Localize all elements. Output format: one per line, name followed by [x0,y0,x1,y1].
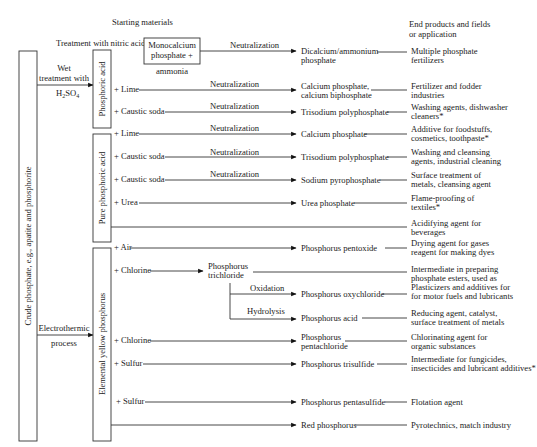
row4-product-1: Trisodium polyphosphate [301,152,389,162]
row11-process: Hydrolysis [247,306,285,316]
electrothermic-label: Electrothermic [38,323,89,333]
row6-product-1: Urea phosphate [301,198,355,208]
row13-app-2: insecticides and lubricant additives* [411,363,536,373]
header-end-products-line2: or application [409,29,457,39]
row2-product-1: Trisodium polyphosphate [301,107,389,117]
row10-process: Oxidation [250,283,285,293]
row10-product-1: Phosphorus oxychloride [301,289,384,299]
row0-process: Neutralization [230,40,280,50]
row4-process: Neutralization [210,147,260,157]
row7-app-2: beverages [411,227,446,237]
row8-reagent: + Air [114,242,132,252]
row5-reagent: + Caustic soda [114,174,165,184]
ammonia-label: ammonia [156,66,188,76]
row8-app-2: reagent for making dyes [411,247,495,257]
row14-reagent: + Sulfur [116,396,145,406]
row6-app-2: textiles* [411,202,440,212]
row0-product-2: phosphate [301,55,336,65]
row12-product-2: pentachloride [301,341,348,351]
process-label: process [51,338,77,348]
row4-app-2: agents, industrial cleaning [411,156,502,166]
row2-process: Neutralization [210,101,260,111]
nitric-acid-label: Treatment with nitric acid [56,38,146,48]
row14-product-1: Phosphorus pentasulfide [301,397,385,407]
row9-app-4: for motor fuels and lubricants [411,291,514,301]
row5-app-2: metals, cleansing agent [411,179,492,189]
phosphoric-acid-label: Phosphoric acid [97,61,107,117]
phosphate-process-diagram: Starting materials End products and fiel… [0,0,537,447]
crude-phosphate-label: Crude phosphate, e.g., apatite and phosp… [23,166,33,325]
row11-app-2: surface treatment of metals [411,317,505,327]
monocalcium-line1: Monocalcium [148,40,196,50]
row2-reagent: + Caustic soda [114,106,165,116]
row9-product-2: trichloride [208,270,244,280]
header-starting-materials: Starting materials [112,17,174,27]
row1-process: Neutralization [210,79,260,89]
row11-product-1: Phosphorus acid [301,313,358,323]
row6-reagent: + Urea [114,197,138,207]
row1-reagent: + Lime [114,84,139,94]
row1-product-2: calcium biphosphate [301,90,372,100]
row5-process: Neutralization [210,169,260,179]
row13-product-1: Phosphorus trisulfide [301,359,374,369]
row12-app-2: organic substances [411,341,476,351]
wet-treatment-label: treatment with [39,73,90,83]
row1-app-2: industries [411,90,445,100]
row5-product-1: Sodium pyrophosphate [301,175,381,185]
row13-reagent: + Sulfur [114,358,143,368]
monocalcium-line2: phosphate + [151,50,193,60]
row3-app-2: cosmetics, toothpaste* [411,133,489,143]
header-end-products-line1: End products and fields [409,19,491,29]
row0-app-2: fertilizers [411,55,445,65]
row4-reagent: + Caustic soda [114,151,165,161]
h2so4-label: H2SO4 [56,88,79,99]
wet-label: Wet [57,63,71,73]
yellow-phosphorus-label: Elemental yellow phosphorus [97,292,107,395]
row9-reagent: + Chlorine [114,265,151,275]
row15-product-1: Red phosphorus [301,420,357,430]
pure-phosphoric-acid-label: Pure phosphoric acid [97,151,107,224]
row15-app-1: Pyrotechnics, match industry [411,420,512,430]
row14-app-1: Flotation agent [411,397,463,407]
row2-app-2: cleaners* [411,111,443,121]
row8-product-1: Phosphorus pentoxide [301,243,377,253]
row3-process: Neutralization [210,123,260,133]
row3-product-1: Calcium phosphate [301,129,367,139]
row3-reagent: + Lime [114,128,139,138]
row12-reagent: + Chlorine [114,335,151,345]
